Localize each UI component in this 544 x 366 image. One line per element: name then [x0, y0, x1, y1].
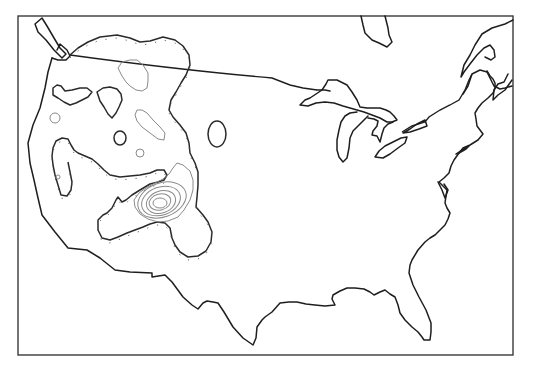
contour-gray-tiny [56, 175, 60, 179]
great-lakes [300, 80, 427, 162]
contour-cluster [133, 163, 193, 225]
contour-oval-small [114, 131, 126, 145]
contours-minor [50, 60, 165, 179]
cluster-ring-5 [133, 175, 192, 224]
contour-blob-northwest [53, 85, 92, 105]
st-lawrence-river [402, 74, 472, 132]
outer-contour [52, 35, 212, 257]
contour-gray-elongated [135, 110, 165, 140]
contour-gray-small-west [50, 113, 60, 123]
border-49th-parallel [70, 55, 317, 90]
us-west-gulf-east-outline [28, 58, 495, 345]
map-frame [18, 16, 513, 355]
cluster-ring-1 [153, 198, 167, 208]
map-figure: Contour map of the contiguous United Sta… [0, 0, 544, 366]
james-bay [361, 16, 392, 47]
contour-blob-central-north [97, 87, 122, 118]
contour-gray-small-central [136, 149, 144, 157]
map-canvas [0, 0, 544, 366]
contours-major [52, 35, 226, 260]
coastline [28, 18, 513, 345]
superior-north-shore [317, 90, 330, 91]
contour-oval-east [208, 121, 226, 147]
gulf-st-lawrence-north-shore [461, 20, 513, 77]
international-border [70, 55, 472, 132]
vancouver-island [35, 18, 66, 58]
long-island [456, 146, 469, 154]
lake-michigan [337, 112, 368, 162]
lake-superior [300, 80, 397, 122]
